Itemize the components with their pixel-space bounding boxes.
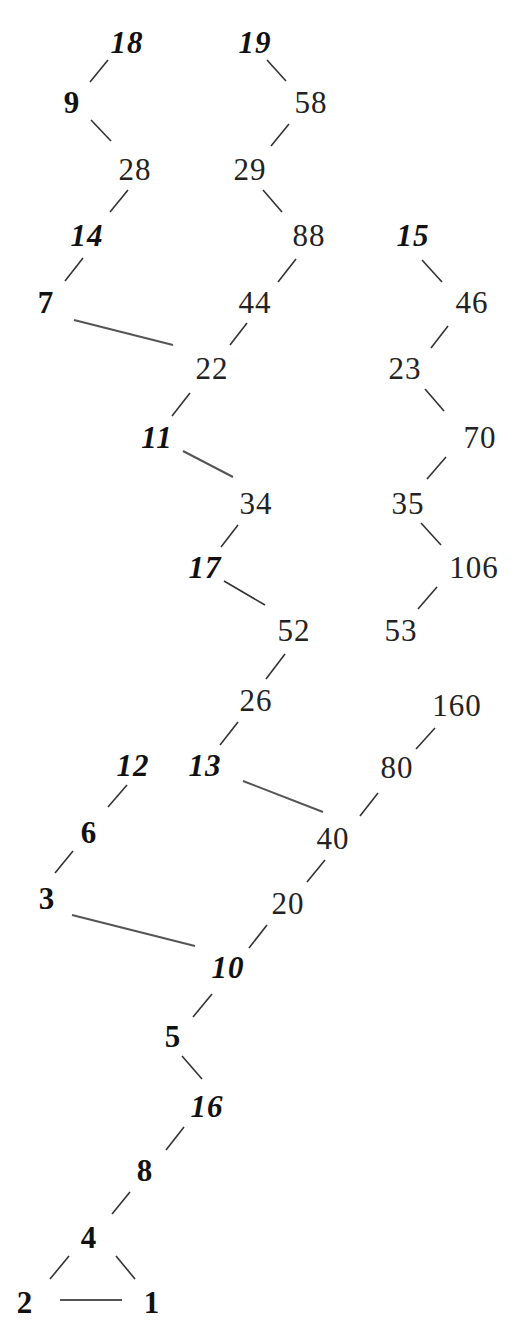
edge-18-9 (90, 60, 108, 82)
node-15: 15 (397, 220, 430, 251)
edge-16-8 (166, 1127, 184, 1150)
edge-58-29 (271, 124, 289, 146)
node-12: 12 (117, 750, 150, 781)
node-5: 5 (165, 1021, 182, 1052)
node-13: 13 (189, 750, 222, 781)
node-16: 16 (191, 1091, 224, 1122)
node-40: 40 (317, 823, 350, 854)
edge-17-52 (224, 581, 265, 605)
edge-9-28 (91, 120, 111, 141)
node-70: 70 (464, 422, 497, 453)
node-80: 80 (381, 752, 414, 783)
node-29: 29 (234, 154, 267, 185)
edge-160-80 (416, 728, 435, 749)
node-160: 160 (432, 690, 482, 721)
node-7: 7 (38, 287, 55, 318)
edge-28-14 (110, 190, 128, 212)
node-17: 17 (189, 552, 222, 583)
edge-20-10 (249, 925, 267, 948)
edge-14-7 (65, 258, 83, 281)
node-4: 4 (81, 1222, 98, 1253)
edge-23-70 (425, 389, 444, 411)
node-1: 1 (144, 1287, 161, 1318)
node-2: 2 (17, 1287, 34, 1318)
node-46: 46 (456, 287, 489, 318)
node-6: 6 (81, 817, 98, 848)
node-26: 26 (240, 685, 273, 716)
edge-88-44 (278, 259, 296, 282)
edge-7-22 (74, 320, 173, 345)
edge-11-34 (183, 451, 233, 477)
edge-106-53 (418, 587, 437, 609)
edge-15-46 (422, 260, 442, 282)
edge-44-22 (230, 323, 247, 345)
edge-70-35 (427, 457, 446, 479)
edge-26-13 (220, 722, 238, 745)
collatz-diagram (0, 0, 529, 1342)
edge-13-40 (243, 781, 323, 812)
edge-layer (50, 60, 448, 1300)
edge-52-26 (266, 654, 285, 679)
edge-40-20 (307, 860, 325, 882)
node-34: 34 (240, 488, 273, 519)
node-22: 22 (196, 353, 229, 384)
edge-4-1 (116, 1256, 135, 1279)
node-14: 14 (71, 220, 104, 251)
node-9: 9 (64, 87, 81, 118)
node-11: 11 (141, 422, 172, 453)
edge-46-23 (431, 326, 448, 348)
edge-8-4 (112, 1192, 130, 1214)
node-35: 35 (392, 488, 425, 519)
edge-22-11 (172, 393, 190, 416)
edge-10-5 (193, 994, 212, 1017)
node-3: 3 (39, 883, 56, 914)
node-52: 52 (278, 615, 311, 646)
node-8: 8 (137, 1155, 154, 1186)
edge-29-88 (263, 190, 282, 212)
node-88: 88 (293, 220, 326, 251)
edge-34-17 (221, 525, 238, 547)
edge-5-16 (182, 1056, 202, 1079)
edge-3-10 (72, 915, 195, 946)
node-18: 18 (111, 27, 144, 58)
edge-4-2 (50, 1256, 69, 1279)
edge-12-6 (108, 785, 127, 807)
node-28: 28 (119, 154, 152, 185)
edge-35-106 (421, 523, 441, 545)
node-106: 106 (449, 552, 499, 583)
node-23: 23 (389, 353, 422, 384)
node-44: 44 (239, 287, 272, 318)
edge-19-58 (267, 60, 286, 81)
node-58: 58 (295, 87, 328, 118)
node-19: 19 (239, 27, 272, 58)
node-20: 20 (272, 888, 305, 919)
edge-80-40 (360, 793, 378, 816)
node-53: 53 (385, 615, 418, 646)
edge-6-3 (55, 851, 73, 873)
node-10: 10 (212, 952, 245, 983)
